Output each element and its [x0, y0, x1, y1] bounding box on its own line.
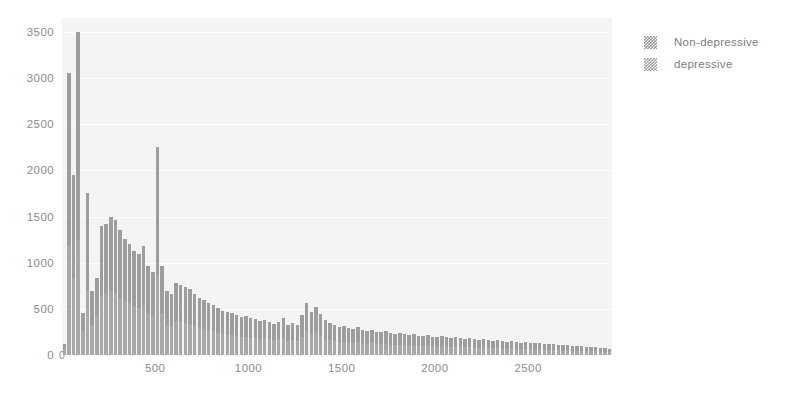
bar [221, 334, 224, 355]
x-tick-label: 1000 [235, 362, 262, 374]
bar [179, 322, 182, 355]
bar [487, 348, 490, 355]
bar [90, 325, 93, 355]
legend: Non-depressive depressive [644, 31, 802, 75]
bar [314, 332, 317, 355]
bar [403, 345, 406, 355]
bar [449, 347, 452, 355]
bar [272, 340, 275, 355]
bar [370, 343, 373, 355]
bar [310, 335, 313, 355]
bar [412, 345, 415, 355]
bar [459, 347, 462, 355]
bar [202, 329, 205, 355]
bar [426, 346, 429, 355]
bar [580, 351, 583, 355]
bar [81, 331, 84, 355]
bar [566, 350, 569, 355]
bar [324, 339, 327, 355]
bar [351, 343, 354, 355]
bar [454, 347, 457, 355]
legend-label-depressive: depressive [674, 58, 733, 70]
bar [137, 308, 140, 355]
bar [118, 298, 121, 355]
bar [319, 336, 322, 355]
bar [151, 316, 154, 355]
bar [552, 350, 555, 355]
bar [468, 347, 471, 355]
bar [365, 344, 368, 355]
bar [571, 351, 574, 355]
bar [379, 344, 382, 355]
bar [491, 348, 494, 355]
bar [109, 291, 112, 355]
bar [599, 352, 602, 356]
bar [240, 337, 243, 355]
bar [473, 348, 476, 355]
bar [533, 350, 536, 355]
bar [431, 346, 434, 355]
bar [160, 313, 163, 355]
bar [594, 351, 597, 355]
bar [188, 324, 191, 355]
bar [142, 305, 145, 355]
bar [184, 323, 187, 355]
bar [156, 274, 159, 355]
bar [114, 293, 117, 355]
bar [132, 306, 135, 355]
bar [543, 350, 546, 355]
bar [417, 346, 420, 355]
bar [104, 294, 107, 355]
bar [212, 331, 215, 355]
bar [282, 338, 285, 355]
bar [463, 347, 466, 355]
bar [338, 342, 341, 355]
bar [230, 335, 233, 355]
bar [100, 296, 103, 355]
bar [244, 337, 247, 355]
bar [585, 351, 588, 355]
bar [529, 349, 532, 355]
bar [557, 350, 560, 355]
bar [389, 345, 392, 355]
bar [519, 349, 522, 355]
x-tick-label: 2000 [421, 362, 448, 374]
legend-label-non-depressive: Non-depressive [674, 36, 759, 48]
bar [128, 303, 131, 355]
x-tick-label: 500 [145, 362, 165, 374]
x-tick-label: 2500 [515, 362, 542, 374]
bar [575, 351, 578, 355]
bar [198, 328, 201, 355]
bar [286, 341, 289, 355]
bar [589, 351, 592, 355]
bar [268, 339, 271, 355]
bar [407, 346, 410, 355]
bar [375, 344, 378, 355]
bar [296, 341, 299, 355]
bar [333, 341, 336, 355]
bar [505, 349, 508, 355]
bar [384, 344, 387, 355]
bar [76, 240, 79, 355]
bar [440, 346, 443, 355]
bar [347, 342, 350, 355]
bar [603, 352, 606, 355]
bar [216, 333, 219, 355]
bar [67, 246, 70, 355]
bar [524, 349, 527, 355]
bar [356, 342, 359, 355]
bar [435, 347, 438, 355]
bar [170, 326, 173, 355]
bar [538, 349, 541, 355]
bar [146, 313, 149, 355]
bar [235, 336, 238, 355]
histogram-chart: 0500100015002000250030003500 05001000150… [0, 0, 805, 396]
bar [174, 321, 177, 355]
legend-item-depressive[interactable]: depressive [644, 53, 802, 75]
bar [361, 343, 364, 355]
bar [482, 347, 485, 355]
legend-item-non-depressive[interactable]: Non-depressive [644, 31, 802, 53]
bar [547, 350, 550, 355]
legend-swatch-icon [644, 36, 657, 49]
bar [398, 345, 401, 355]
